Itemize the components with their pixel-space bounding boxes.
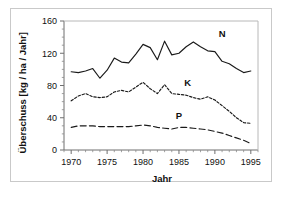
series-label-n: N (219, 28, 226, 39)
y-tick-label: 80 (47, 81, 57, 91)
axes (64, 21, 258, 150)
y-tick-label: 120 (42, 49, 57, 59)
x-tick-label: 1995 (241, 157, 261, 167)
y-axis-ticks: 04080120160 (42, 16, 64, 155)
x-tick-label: 1975 (97, 157, 117, 167)
series-annotations: NKP (176, 28, 226, 121)
series-line-p (71, 125, 251, 144)
y-tick-label: 160 (42, 16, 57, 26)
figure-container: Überschuss [kg / ha / Jahr] Jahr 0408012… (0, 0, 284, 198)
series-label-k: K (184, 77, 191, 88)
series-line-n (71, 41, 251, 78)
x-tick-label: 1985 (169, 157, 189, 167)
data-series (71, 41, 251, 143)
x-tick-label: 1970 (61, 157, 81, 167)
x-tick-label: 1980 (133, 157, 153, 167)
y-tick-label: 40 (47, 113, 57, 123)
x-axis-ticks: 197019751980198519901995 (61, 150, 261, 167)
y-tick-label: 0 (52, 145, 57, 155)
x-tick-label: 1990 (205, 157, 225, 167)
line-chart: 04080120160 197019751980198519901995 NKP (0, 0, 284, 198)
series-line-k (71, 82, 251, 123)
series-label-p: P (176, 110, 183, 121)
